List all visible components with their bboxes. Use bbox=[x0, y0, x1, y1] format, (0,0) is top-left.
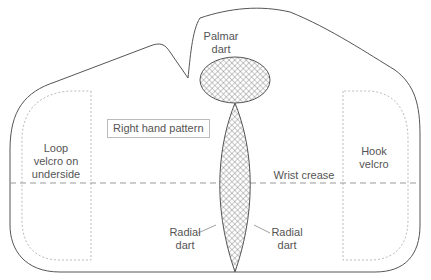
radial-left-line1: Radial bbox=[160, 226, 210, 239]
loop-label-line3: underside bbox=[22, 168, 90, 181]
palmar-dart-label: Palmar dart bbox=[196, 30, 246, 56]
pattern-title: Right hand pattern bbox=[113, 122, 204, 134]
palmar-dart-label-line1: Palmar bbox=[196, 30, 246, 43]
radial-dart-right-label: Radial dart bbox=[262, 226, 312, 252]
radial-dart-left-label: Radial dart bbox=[160, 226, 210, 252]
radial-right-line1: Radial bbox=[262, 226, 312, 239]
wrist-crease-text: Wrist crease bbox=[274, 169, 335, 181]
radial-dart-shape bbox=[220, 103, 250, 272]
radial-left-line2: dart bbox=[160, 239, 210, 252]
loop-label-line1: Loop bbox=[22, 142, 90, 155]
hook-velcro-label: Hook velcro bbox=[343, 145, 405, 171]
hook-label-line1: Hook bbox=[343, 145, 405, 158]
hook-label-line2: velcro bbox=[343, 158, 405, 171]
pattern-title-box: Right hand pattern bbox=[107, 119, 210, 138]
loop-label-line2: velcro on bbox=[22, 155, 90, 168]
palmar-dart-label-line2: dart bbox=[196, 43, 246, 56]
radial-right-line2: dart bbox=[262, 239, 312, 252]
hook-velcro-region bbox=[343, 91, 408, 260]
loop-velcro-label: Loop velcro on underside bbox=[22, 142, 90, 181]
wrist-crease-label: Wrist crease bbox=[264, 169, 344, 182]
palmar-dart-shape bbox=[200, 57, 270, 103]
